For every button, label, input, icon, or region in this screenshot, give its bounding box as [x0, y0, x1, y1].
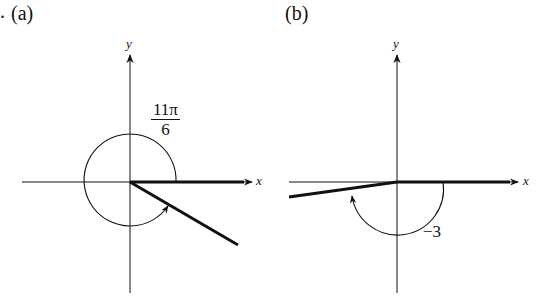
panel-label-a: (a) [11, 2, 33, 25]
panel-prefix: . [0, 0, 5, 23]
x-axis-label: x [523, 173, 529, 189]
panel-a-diagram [22, 55, 252, 293]
angle-numerator: 11π [151, 100, 180, 120]
panel-b-diagram [289, 55, 518, 293]
angle-label-fraction: 11π 6 [151, 100, 180, 139]
angle-diagrams [0, 0, 540, 302]
angle-label: −3 [423, 222, 441, 242]
angle-denominator: 6 [151, 120, 180, 139]
terminal-side [130, 182, 238, 245]
y-axis-label: y [126, 36, 132, 52]
terminal-side [289, 182, 397, 197]
panel-label-b: (b) [285, 2, 308, 25]
x-axis-label: x [256, 173, 262, 189]
y-axis-label: y [393, 36, 399, 52]
